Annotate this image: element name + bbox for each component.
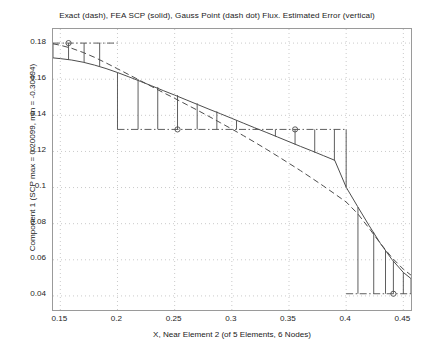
y-tick-label: 0.14 <box>4 109 46 118</box>
x-tick-label: 0.25 <box>154 314 194 323</box>
x-tick-label: 0.45 <box>382 314 422 323</box>
figure-canvas: Exact (dash), FEA SCP (solid), Gauss Poi… <box>0 0 434 357</box>
y-tick-label: 0.08 <box>4 217 46 226</box>
chart-title: Exact (dash), FEA SCP (solid), Gauss Poi… <box>0 11 434 20</box>
x-tick-label: 0.3 <box>211 314 251 323</box>
y-tick-label: 0.16 <box>4 73 46 82</box>
y-tick-label: 0.04 <box>4 289 46 298</box>
x-tick-label: 0.4 <box>325 314 365 323</box>
plot-area <box>52 28 412 311</box>
y-tick-label: 0.12 <box>4 145 46 154</box>
y-tick-label: 0.1 <box>4 181 46 190</box>
y-tick-label: 0.18 <box>4 37 46 46</box>
y-tick-label: 0.06 <box>4 253 46 262</box>
error-bar-layer <box>53 43 411 294</box>
x-tick-label: 0.2 <box>96 314 136 323</box>
plot-svg <box>53 29 411 310</box>
gridlines <box>53 29 411 310</box>
x-tick-label: 0.15 <box>39 314 79 323</box>
x-axis-label: X, Near Element 2 (of 5 Elements, 6 Node… <box>52 330 412 339</box>
gauss-point-flux-line <box>53 43 411 294</box>
x-tick-label: 0.35 <box>268 314 308 323</box>
exact-flux-line <box>53 44 411 275</box>
